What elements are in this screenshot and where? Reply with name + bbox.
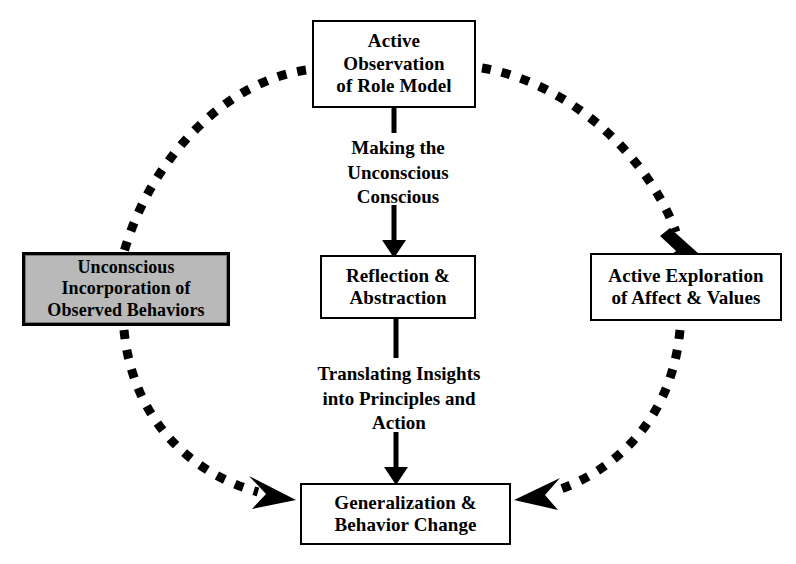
arc-observation-to-unconscious bbox=[124, 70, 306, 252]
node-active-observation[interactable]: Active Observation of Role Model bbox=[312, 20, 476, 108]
arc-unconscious-to-generalization bbox=[124, 330, 296, 509]
node-active-exploration-label: Active Exploration of Affect & Values bbox=[602, 265, 769, 310]
node-reflection-abstraction[interactable]: Reflection & Abstraction bbox=[320, 255, 476, 319]
node-unconscious-incorporation-label: Unconscious Incorporation of Observed Be… bbox=[41, 257, 210, 321]
edge-label-translating-insights: Translating Insights into Principles and… bbox=[288, 362, 510, 436]
node-active-observation-label: Active Observation of Role Model bbox=[330, 30, 457, 97]
node-unconscious-incorporation[interactable]: Unconscious Incorporation of Observed Be… bbox=[22, 252, 230, 326]
node-generalization-behavior-change-label: Generalization & Behavior Change bbox=[328, 492, 483, 537]
edge-label-making-unconscious-conscious: Making the Unconscious Conscious bbox=[318, 136, 478, 210]
node-active-exploration[interactable]: Active Exploration of Affect & Values bbox=[590, 253, 782, 321]
node-generalization-behavior-change[interactable]: Generalization & Behavior Change bbox=[300, 483, 511, 545]
node-reflection-abstraction-label: Reflection & Abstraction bbox=[340, 265, 456, 310]
diagram-canvas: Active Observation of Role Model Unconsc… bbox=[0, 0, 796, 564]
arc-exploration-to-generalization bbox=[514, 330, 680, 510]
arc-observation-to-exploration bbox=[482, 68, 700, 262]
